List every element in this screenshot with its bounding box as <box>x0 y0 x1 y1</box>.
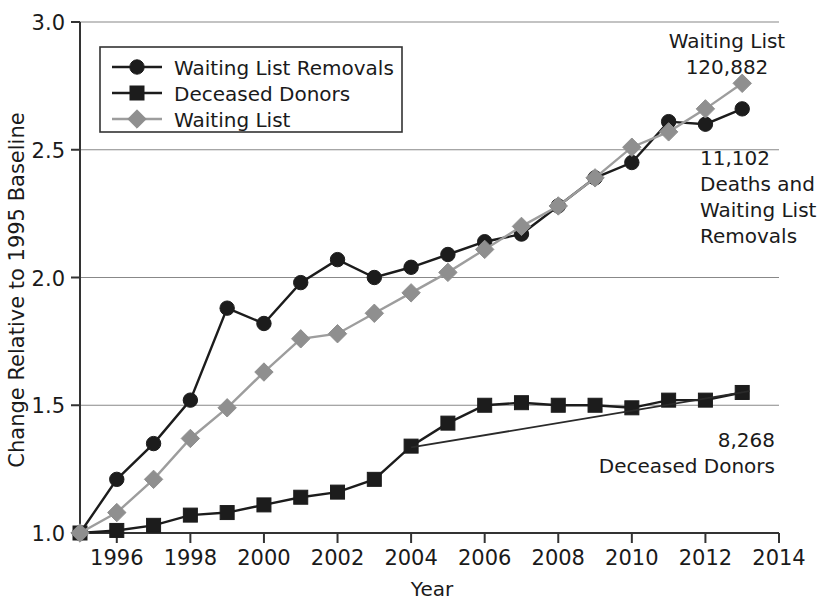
data-point-marker <box>183 508 197 522</box>
annotation-line: Removals <box>700 224 797 248</box>
data-point-marker <box>331 485 345 499</box>
data-point-marker <box>441 247 455 261</box>
annotation-line: 11,102 <box>700 146 770 170</box>
y-tick-label: 1.0 <box>32 522 65 546</box>
x-tick-label: 2000 <box>237 546 290 570</box>
data-point-marker <box>147 518 161 532</box>
data-point-marker <box>514 396 528 410</box>
data-point-marker <box>367 472 381 486</box>
data-point-marker <box>365 304 383 322</box>
legend-item-label: Deceased Donors <box>174 82 350 106</box>
waiting-list-annotation: Waiting List120,882 <box>669 29 786 79</box>
deceased-donors-annotation: 8,268Deceased Donors <box>599 428 775 478</box>
data-point-marker <box>220 301 234 315</box>
annotation-line: 120,882 <box>686 55 769 79</box>
data-point-marker <box>588 398 602 412</box>
y-tick-label: 3.0 <box>32 11 65 35</box>
annotation-line: Waiting List <box>700 198 817 222</box>
annotation-line: Deceased Donors <box>599 454 775 478</box>
annotation-line: Waiting List <box>669 29 786 53</box>
data-point-marker <box>439 263 457 281</box>
data-point-marker <box>146 436 160 450</box>
x-tick-label: 2010 <box>605 546 658 570</box>
x-tick-label: 2006 <box>458 546 511 570</box>
annotation-leader-line-group <box>411 391 749 447</box>
y-tick-label-group: 1.01.52.02.53.0 <box>32 11 80 546</box>
data-point-marker <box>551 398 565 412</box>
legend-swatch-marker <box>130 60 144 74</box>
data-point-marker <box>441 416 455 430</box>
data-point-marker <box>328 325 346 343</box>
legend-swatch-marker <box>130 86 144 100</box>
y-tick-label: 1.5 <box>32 394 65 418</box>
data-point-marker <box>330 252 344 266</box>
line-chart-canvas: 1.01.52.02.53.0 199619982000200220042006… <box>0 0 817 607</box>
data-point-marker <box>294 275 308 289</box>
chart-figure: 1.01.52.02.53.0 199619982000200220042006… <box>0 0 817 607</box>
y-tick-label: 2.0 <box>32 267 65 291</box>
data-point-marker <box>257 498 271 512</box>
x-tick-label: 1996 <box>90 546 143 570</box>
x-tick-label-group: 1996199820002002200420062008201020122014 <box>90 546 806 570</box>
data-point-marker <box>110 523 124 537</box>
x-tick-label: 2014 <box>752 546 805 570</box>
x-tick-label: 2012 <box>679 546 732 570</box>
annotation-line: 8,268 <box>718 428 775 452</box>
deceased-donors-leader-line <box>411 391 749 447</box>
data-point-marker <box>220 506 234 520</box>
chart-legend[interactable]: Waiting List RemovalsDeceased DonorsWait… <box>100 47 402 132</box>
data-point-marker <box>698 117 712 131</box>
data-point-marker <box>110 472 124 486</box>
x-tick-label: 2008 <box>532 546 585 570</box>
deaths-removals-annotation: 11,102Deaths andWaiting ListRemovals <box>700 146 817 248</box>
x-tick-group <box>117 533 779 543</box>
data-point-marker <box>367 270 381 284</box>
x-tick-label: 1998 <box>164 546 217 570</box>
legend-item-label: Waiting List <box>174 108 291 132</box>
x-tick-label: 2002 <box>311 546 364 570</box>
data-point-marker <box>183 393 197 407</box>
annotation-line: Deaths and <box>700 172 815 196</box>
x-axis-title: Year <box>410 577 454 601</box>
data-point-marker <box>478 398 492 412</box>
data-point-marker <box>696 100 714 118</box>
data-point-marker <box>404 260 418 274</box>
data-point-marker <box>402 284 420 302</box>
x-tick-label: 2004 <box>384 546 437 570</box>
y-axis-title: Change Relative to 1995 Baseline <box>5 112 29 467</box>
data-point-marker <box>549 197 567 215</box>
data-point-marker <box>625 155 639 169</box>
y-tick-label: 2.5 <box>32 139 65 163</box>
data-point-marker <box>257 316 271 330</box>
data-point-marker <box>294 490 308 504</box>
data-point-marker <box>735 102 749 116</box>
legend-item-label: Waiting List Removals <box>174 56 394 80</box>
data-point-marker <box>625 401 639 415</box>
